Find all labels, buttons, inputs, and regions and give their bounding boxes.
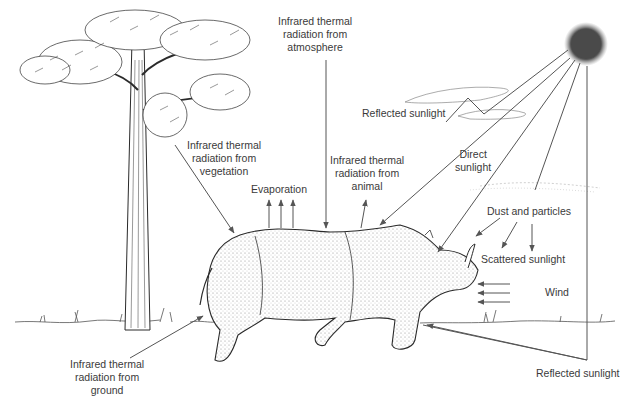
label-line: Direct (455, 148, 491, 161)
label-line: Infrared thermal (187, 139, 261, 152)
label-line: ground (70, 384, 144, 397)
label-line: Evaporation (251, 183, 307, 196)
label-wind: Wind (545, 286, 569, 299)
label-line: animal (330, 180, 404, 193)
label-dust: Dust and particles (487, 205, 571, 218)
label-evaporation: Evaporation (251, 183, 307, 196)
label-vegetation: Infrared thermal radiation from vegetati… (187, 139, 261, 178)
label-line: sunlight (455, 161, 491, 174)
label-line: Infrared thermal (278, 15, 352, 28)
label-line: Infrared thermal (70, 358, 144, 371)
label-direct-sunlight: Direct sunlight (455, 148, 491, 174)
label-line: Wind (545, 286, 569, 299)
label-line: radiation from (278, 28, 352, 41)
label-line: radiation from (187, 152, 261, 165)
label-line: Reflected sunlight (536, 367, 619, 380)
label-line: Dust and particles (487, 205, 571, 218)
label-line: radiation from (70, 371, 144, 384)
label-line: radiation from (330, 167, 404, 180)
label-line: Scattered sunlight (481, 253, 565, 266)
label-reflected-sunlight-ground: Reflected sunlight (536, 367, 619, 380)
cloud-icon (405, 87, 600, 192)
label-line: Infrared thermal (330, 154, 404, 167)
rhinoceros-illustration (200, 225, 478, 361)
label-reflected-sunlight-cloud: Reflected sunlight (362, 107, 445, 120)
label-atmosphere: Infrared thermal radiation from atmosphe… (278, 15, 352, 54)
label-animal: Infrared thermal radiation from animal (330, 154, 404, 193)
label-scattered: Scattered sunlight (481, 253, 565, 266)
label-line: atmosphere (278, 41, 352, 54)
sun-icon (564, 22, 608, 66)
label-ground: Infrared thermal radiation from ground (70, 358, 144, 397)
label-line: Reflected sunlight (362, 107, 445, 120)
diagram-canvas (0, 0, 641, 401)
label-line: vegetation (187, 165, 261, 178)
